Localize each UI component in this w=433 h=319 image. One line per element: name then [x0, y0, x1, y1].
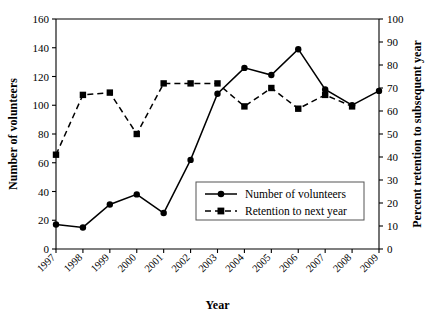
y2-axis-tick-label: 50 [387, 128, 399, 140]
y-axis-tick-label: 80 [38, 128, 50, 140]
y2-axis-tick-label: 90 [387, 36, 399, 48]
legend-marker-1 [218, 208, 225, 215]
data-point-marker [187, 157, 193, 163]
x-axis-title: Year [206, 298, 231, 312]
x-axis-tick-label: 2003 [196, 252, 219, 275]
data-point-marker [187, 80, 193, 86]
y-axis-tick-label: 160 [33, 13, 50, 25]
data-point-marker [80, 224, 86, 230]
y2-axis-tick-label: 40 [387, 151, 399, 163]
x-axis-tick-label: 2008 [331, 252, 354, 275]
y2-axis-tick-label: 0 [387, 243, 393, 255]
x-axis-tick-label: 2009 [358, 252, 381, 275]
x-axis-tick-label: 1999 [89, 252, 112, 275]
data-point-marker [53, 152, 59, 158]
legend-label-1: Retention to next year [245, 205, 347, 218]
x-axis-tick-label: 1998 [62, 252, 85, 275]
legend-marker-0 [218, 191, 225, 198]
data-point-marker [241, 65, 247, 71]
y-axis-tick-label: 100 [33, 99, 50, 111]
x-axis-tick-label: 1997 [35, 252, 58, 275]
y2-axis-tick-label: 10 [387, 220, 399, 232]
data-point-marker [107, 201, 113, 207]
data-point-marker [107, 89, 113, 95]
y-axis-tick-label: 40 [38, 186, 50, 198]
y-axis-tick-label: 140 [33, 42, 50, 54]
x-axis-tick-label: 2006 [277, 252, 300, 275]
data-point-marker [160, 80, 166, 86]
x-axis-tick-label: 2004 [223, 251, 246, 274]
series-line-1 [56, 83, 352, 154]
data-point-marker [268, 85, 274, 91]
y2-axis-tick-label: 70 [387, 82, 399, 94]
x-axis-tick-label: 2002 [169, 252, 192, 275]
data-point-marker [268, 72, 274, 78]
data-point-marker [80, 92, 86, 98]
data-point-marker [241, 103, 247, 109]
data-point-marker [349, 103, 355, 109]
y2-axis-tick-label: 60 [387, 105, 399, 117]
y-axis-title: Number of volunteers [6, 78, 20, 190]
y2-axis-tick-label: 80 [387, 59, 399, 71]
legend-label-0: Number of volunteers [245, 188, 346, 200]
y2-axis-tick-label: 30 [387, 174, 399, 186]
y2-axis-title: Percent retention to subsequent year [410, 40, 424, 228]
data-point-marker [376, 88, 382, 94]
x-axis-tick-label: 2000 [116, 252, 139, 275]
y2-axis-tick-label: 100 [387, 13, 404, 25]
y-axis-tick-label: 20 [38, 214, 50, 226]
x-axis-tick-label: 2007 [304, 252, 327, 275]
data-point-marker [134, 131, 140, 137]
chart-figure: 0204060801001201401600102030405060708090… [0, 0, 433, 319]
x-axis-tick-label: 2005 [250, 252, 273, 275]
data-point-marker [214, 80, 220, 86]
y2-axis-tick-label: 20 [387, 197, 399, 209]
data-point-marker [214, 91, 220, 97]
data-point-marker [295, 106, 301, 112]
x-axis-tick-label: 2001 [142, 252, 165, 275]
data-point-marker [160, 210, 166, 216]
data-point-marker [53, 221, 59, 227]
data-point-marker [322, 92, 328, 98]
data-point-marker [134, 191, 140, 197]
y-axis-tick-label: 120 [33, 71, 50, 83]
y-axis-tick-label: 60 [38, 157, 50, 169]
data-point-marker [322, 86, 328, 92]
chart-canvas: 0204060801001201401600102030405060708090… [0, 0, 433, 319]
data-point-marker [295, 46, 301, 52]
